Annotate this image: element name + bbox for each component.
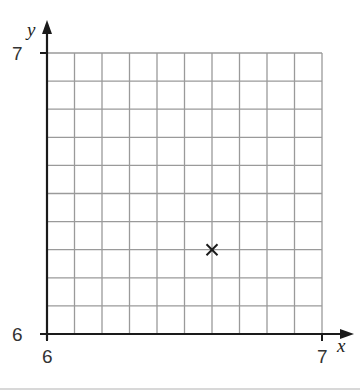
- y-max-tick-label: 7: [12, 43, 23, 64]
- x-max-tick-label: 7: [317, 346, 328, 367]
- coordinate-grid-chart: y x 7 6 6 7: [0, 0, 360, 391]
- grid-lines: [47, 53, 322, 334]
- y-axis-arrow-icon: [42, 20, 52, 34]
- y-axis-label: y: [25, 19, 36, 40]
- y-min-tick-label: 6: [12, 324, 23, 345]
- x-axis: [41, 329, 354, 341]
- x-min-tick-label: 6: [42, 346, 53, 367]
- y-axis: [40, 20, 52, 340]
- bottom-divider: [0, 388, 360, 390]
- x-axis-label: x: [336, 335, 346, 356]
